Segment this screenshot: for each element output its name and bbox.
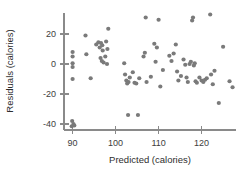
data-point: [212, 69, 216, 73]
data-point: [175, 69, 179, 73]
data-point: [105, 62, 109, 66]
data-point: [205, 76, 209, 80]
data-point: [131, 70, 135, 74]
data-point: [89, 76, 93, 80]
data-point: [167, 54, 171, 58]
data-point: [183, 63, 187, 67]
y-tick-label: 20: [46, 29, 56, 39]
data-point: [179, 74, 183, 78]
y-tick-label: -40: [43, 119, 56, 129]
x-axis-title: Predicted (calories): [109, 154, 191, 165]
data-point: [141, 54, 145, 58]
data-point: [217, 101, 221, 105]
data-point: [128, 75, 132, 79]
x-tick-label: 100: [108, 138, 123, 148]
data-point: [169, 59, 173, 63]
data-point: [191, 15, 195, 19]
y-tick-label: 0: [51, 59, 56, 69]
data-point: [176, 78, 180, 82]
data-point: [100, 43, 104, 47]
y-tick-label: -20: [43, 89, 56, 99]
data-point: [144, 15, 148, 19]
data-point: [83, 33, 87, 37]
data-point: [144, 80, 148, 84]
data-point: [174, 42, 178, 46]
data-point: [186, 80, 190, 84]
scatter-plot-canvas: 90100110120 200-20-40 Predicted (calorie…: [0, 0, 246, 176]
data-point: [158, 84, 162, 88]
data-point: [71, 77, 75, 81]
data-point: [105, 47, 109, 51]
data-point: [209, 72, 213, 76]
data-point: [193, 61, 197, 65]
data-point: [104, 39, 108, 43]
data-point: [208, 12, 212, 16]
y-axis-ticks: 200-20-40: [43, 29, 69, 129]
data-point: [71, 65, 75, 69]
data-point: [137, 76, 141, 80]
x-tick-label: 120: [194, 138, 209, 148]
data-point: [126, 113, 130, 117]
data-point: [155, 45, 159, 49]
data-point: [149, 75, 153, 79]
data-point: [189, 60, 193, 64]
data-point: [71, 61, 75, 65]
data-point: [211, 82, 215, 86]
data-point: [106, 27, 110, 31]
data-point: [122, 61, 126, 65]
data-point: [184, 75, 188, 79]
data-point: [153, 60, 157, 64]
data-point: [227, 79, 231, 83]
x-tick-label: 90: [68, 138, 78, 148]
data-point: [134, 81, 138, 85]
data-point: [71, 54, 75, 58]
data-point: [84, 52, 88, 56]
data-point: [230, 85, 234, 89]
data-points-layer: [70, 12, 235, 128]
data-point: [70, 124, 74, 128]
chart-figure: 90100110120 200-20-40 Predicted (calorie…: [0, 0, 246, 176]
x-tick-label: 110: [151, 138, 165, 148]
data-point: [71, 50, 75, 54]
data-point: [103, 54, 107, 58]
data-point: [101, 48, 105, 52]
data-point: [143, 51, 147, 55]
data-point: [126, 80, 130, 84]
data-point: [221, 45, 225, 49]
x-axis-ticks: 90100110120: [68, 126, 210, 148]
y-axis-title: Residuals (calories): [4, 29, 15, 112]
data-point: [123, 72, 127, 76]
data-point: [161, 68, 165, 72]
data-point: [181, 57, 185, 61]
data-point: [157, 18, 161, 22]
data-point: [172, 51, 176, 55]
data-point: [195, 81, 199, 85]
data-point: [136, 113, 140, 117]
data-point: [152, 42, 156, 46]
plot-axes: [64, 13, 236, 130]
